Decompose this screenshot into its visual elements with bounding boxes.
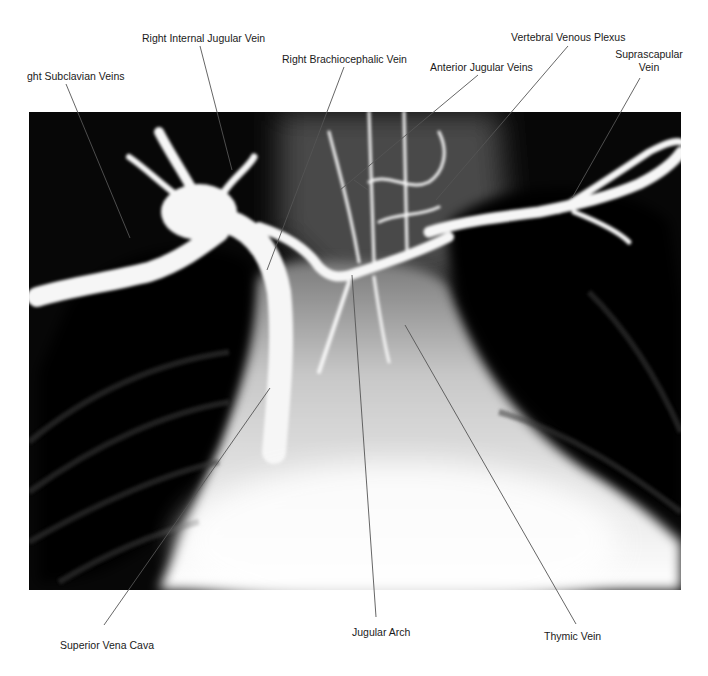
venogram-radiograph — [29, 112, 681, 590]
label-right-internal-jugular-vein: Right Internal Jugular Vein — [142, 32, 265, 45]
label-superior-vena-cava: Superior Vena Cava — [60, 639, 154, 652]
label-thymic-vein: Thymic Vein — [544, 630, 601, 643]
label-suprascapular-line1: Suprascapular — [614, 48, 684, 61]
label-right-subclavian-veins: ght Subclavian Veins — [27, 70, 124, 83]
label-right-brachiocephalic-vein: Right Brachiocephalic Vein — [282, 53, 407, 66]
label-anterior-jugular-veins: Anterior Jugular Veins — [430, 61, 533, 74]
label-suprascapular-line2: Vein — [614, 61, 684, 74]
figure: ght Subclavian Veins Right Internal Jugu… — [0, 0, 708, 676]
label-suprascapular-vein: Suprascapular Vein — [614, 48, 684, 74]
label-vertebral-venous-plexus: Vertebral Venous Plexus — [511, 31, 625, 44]
label-jugular-arch: Jugular Arch — [352, 626, 410, 639]
